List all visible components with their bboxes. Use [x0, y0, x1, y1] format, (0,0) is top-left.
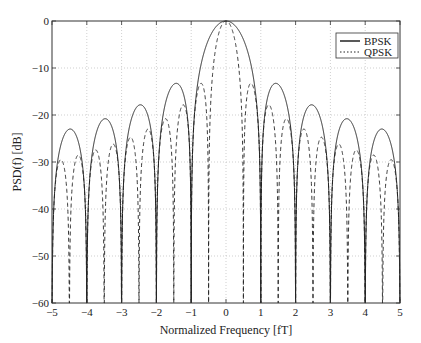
- y-tick-label: 0: [44, 15, 50, 27]
- legend-qpsk-label: QPSK: [364, 46, 392, 58]
- psd-chart: −5−4−3−2−1012345 0−10−20−30−40−50−60 Nor…: [0, 0, 421, 343]
- y-tick-label: −10: [32, 62, 50, 74]
- x-tick-label: −4: [81, 306, 93, 318]
- y-tick-label: −20: [32, 109, 50, 121]
- x-tick-labels: −5−4−3−2−1012345: [46, 306, 403, 318]
- x-tick-label: 5: [397, 306, 403, 318]
- y-axis-label: PSD(f) [dB]: [10, 132, 24, 191]
- y-tick-label: −50: [32, 250, 50, 262]
- y-tick-label: −30: [32, 156, 50, 168]
- x-tick-label: 3: [328, 306, 334, 318]
- x-axis-label: Normalized Frequency [fT]: [160, 323, 293, 337]
- x-tick-label: −2: [151, 306, 163, 318]
- y-tick-label: −60: [32, 297, 50, 309]
- y-tick-label: −40: [32, 203, 50, 215]
- x-tick-label: −1: [185, 306, 197, 318]
- y-tick-labels: 0−10−20−30−40−50−60: [32, 15, 50, 309]
- x-tick-label: −3: [116, 306, 128, 318]
- x-tick-label: 0: [223, 306, 229, 318]
- x-tick-label: 4: [362, 306, 368, 318]
- x-tick-label: 1: [258, 306, 264, 318]
- legend: BPSK QPSK: [336, 33, 398, 58]
- x-tick-label: 2: [293, 306, 299, 318]
